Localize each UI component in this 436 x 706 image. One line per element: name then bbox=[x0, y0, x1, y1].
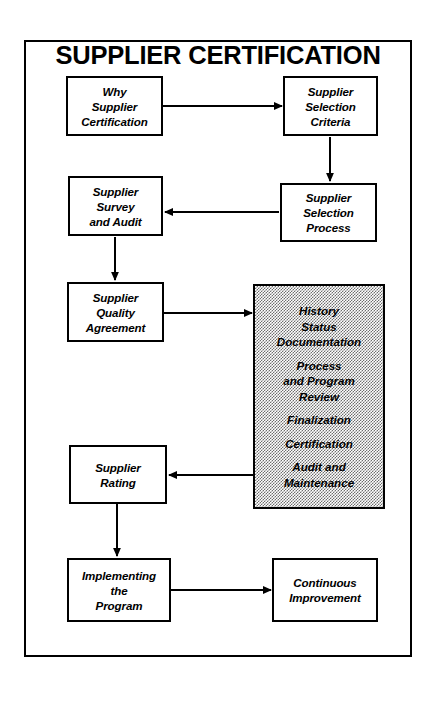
activity-line: Review bbox=[255, 389, 383, 405]
activity-line: and Program bbox=[255, 373, 383, 389]
node-line: Why bbox=[68, 84, 161, 99]
node-why-supplier-certification[interactable]: Why Supplier Certification bbox=[66, 76, 163, 136]
activity-line: Documentation bbox=[255, 334, 383, 350]
node-line: Rating bbox=[71, 475, 165, 490]
node-certification-activities[interactable]: History Status Documentation Process and… bbox=[253, 284, 385, 509]
node-supplier-survey-and-audit[interactable]: Supplier Survey and Audit bbox=[68, 176, 163, 236]
node-line: Agreement bbox=[69, 320, 162, 335]
diagram-canvas: SUPPLIER CERTIFICATION Why Supplier Cert… bbox=[0, 0, 436, 706]
node-line: Criteria bbox=[285, 114, 376, 129]
node-line: the bbox=[69, 583, 169, 598]
node-line: Quality bbox=[69, 305, 162, 320]
node-line: Selection bbox=[285, 99, 376, 114]
node-line: Supplier bbox=[282, 190, 375, 205]
node-line: Process bbox=[282, 220, 375, 235]
node-supplier-rating[interactable]: Supplier Rating bbox=[69, 445, 167, 504]
node-supplier-quality-agreement[interactable]: Supplier Quality Agreement bbox=[67, 282, 164, 342]
node-supplier-selection-criteria[interactable]: Supplier Selection Criteria bbox=[283, 76, 378, 136]
node-line: Supplier bbox=[285, 84, 376, 99]
node-supplier-selection-process[interactable]: Supplier Selection Process bbox=[280, 183, 377, 242]
activity-line: Finalization bbox=[255, 412, 383, 428]
page-title: SUPPLIER CERTIFICATION bbox=[24, 41, 412, 69]
node-line: Supplier bbox=[71, 460, 165, 475]
node-line: Continuous bbox=[274, 575, 376, 590]
node-line: Certification bbox=[68, 114, 161, 129]
activity-group-certification: Certification bbox=[255, 436, 383, 452]
node-line: Supplier bbox=[69, 290, 162, 305]
activity-group-history-status-documentation: History Status Documentation bbox=[255, 303, 383, 350]
node-implementing-the-program[interactable]: Implementing the Program bbox=[67, 558, 171, 622]
node-line: Survey bbox=[70, 199, 161, 214]
node-line: Implementing bbox=[69, 568, 169, 583]
activity-group-finalization: Finalization bbox=[255, 412, 383, 428]
node-line: Supplier bbox=[68, 99, 161, 114]
activity-line: History bbox=[255, 303, 383, 319]
node-line: Improvement bbox=[274, 590, 376, 605]
activity-line: Process bbox=[255, 358, 383, 374]
activity-line: Audit and bbox=[255, 459, 383, 475]
node-continuous-improvement[interactable]: Continuous Improvement bbox=[272, 558, 378, 622]
activity-group-audit-and-maintenance: Audit and Maintenance bbox=[255, 459, 383, 490]
activity-line: Maintenance bbox=[255, 475, 383, 491]
node-line: Supplier bbox=[70, 184, 161, 199]
node-line: and Audit bbox=[70, 214, 161, 229]
node-line: Selection bbox=[282, 205, 375, 220]
activity-group-process-and-program-review: Process and Program Review bbox=[255, 358, 383, 405]
activity-line: Status bbox=[255, 319, 383, 335]
activity-line: Certification bbox=[255, 436, 383, 452]
node-line: Program bbox=[69, 598, 169, 613]
